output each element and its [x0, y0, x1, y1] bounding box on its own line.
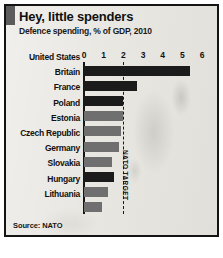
chart-subtitle: Defence spending, % of GDP, 2010	[19, 26, 152, 36]
category-label-slovakia: Slovakia	[48, 158, 81, 168]
category-label-hungary: Hungary	[47, 174, 80, 184]
bar-lithuania	[84, 202, 102, 212]
category-label-czech-republic: Czech Republic	[20, 128, 80, 138]
bar-germany	[84, 157, 112, 167]
category-labels: United StatesBritainFrancePolandEstoniaC…	[6, 50, 80, 214]
bar-estonia	[84, 126, 121, 136]
bar-row	[83, 93, 204, 108]
category-label-poland: Poland	[53, 98, 80, 108]
x-tick-label-6: 6	[200, 50, 205, 60]
x-tick-label-5: 5	[180, 50, 185, 60]
plot-area: NATO TARGET 0123456	[83, 50, 204, 214]
category-label-france: France	[54, 82, 80, 92]
category-label-united-states: United States	[29, 52, 80, 62]
bar-czech-republic	[84, 142, 119, 152]
title-accent-bar	[6, 6, 15, 25]
x-tick-label-1: 1	[101, 50, 106, 60]
chart-card: Hey, little spenders Defence spending, %…	[4, 4, 219, 237]
bar-row	[83, 200, 204, 215]
bar-row	[83, 185, 204, 200]
bar-row	[83, 154, 204, 169]
bar-poland	[84, 111, 123, 121]
category-label-lithuania: Lithuania	[44, 189, 80, 199]
bar-slovakia	[84, 172, 114, 182]
x-tick-label-2: 2	[121, 50, 126, 60]
x-tick-label-4: 4	[160, 50, 165, 60]
source-note: Source: NATO	[13, 221, 62, 230]
chart-title: Hey, little spenders	[19, 9, 133, 24]
category-label-britain: Britain	[55, 67, 80, 77]
bar-britain	[84, 81, 137, 91]
bar-row	[83, 139, 204, 154]
bar-row	[83, 78, 204, 93]
category-label-estonia: Estonia	[51, 113, 80, 123]
x-tick-label-3: 3	[141, 50, 146, 60]
bar-hungary	[84, 187, 108, 197]
bar-united-states	[84, 66, 190, 76]
bar-row	[83, 124, 204, 139]
category-label-germany: Germany	[45, 143, 80, 153]
bar-row	[83, 109, 204, 124]
bar-france	[84, 96, 123, 106]
x-tick-label-0: 0	[82, 50, 87, 60]
bar-row	[83, 169, 204, 184]
bar-row	[83, 63, 204, 78]
